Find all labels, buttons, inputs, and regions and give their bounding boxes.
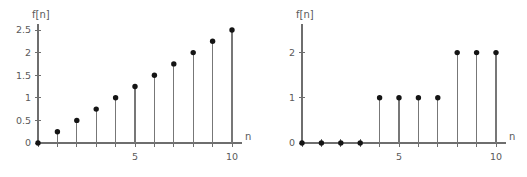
data-point-l-8	[191, 50, 196, 55]
data-point-l-3	[94, 106, 99, 111]
data-point-l-9	[210, 39, 215, 44]
data-point-l-5	[132, 84, 137, 89]
right-plot-canvas: 012510f[n]n	[264, 0, 527, 177]
data-point-l-4	[113, 95, 118, 100]
x-tick-label-r-5: 5	[396, 151, 402, 162]
y-tick-label-l-3: 1.5	[16, 70, 31, 81]
y-axis-label: f[n]	[32, 9, 50, 20]
right-plot-content: 012510f[n]n	[289, 9, 515, 162]
data-point-r-2	[338, 140, 343, 145]
y-axis-label: f[n]	[296, 9, 314, 20]
left-plot-content: 00.511.522.5510f[n]n	[16, 9, 251, 162]
data-point-r-6	[416, 95, 421, 100]
left-stem-plot: 00.511.522.5510f[n]n	[0, 0, 263, 177]
data-point-r-7	[435, 95, 440, 100]
data-point-r-8	[455, 50, 460, 55]
x-tick-label-l-5: 5	[132, 151, 138, 162]
y-tick-label-l-5: 2.5	[16, 24, 31, 35]
y-tick-label-r-2: 2	[289, 47, 295, 58]
data-point-r-9	[474, 50, 479, 55]
stem-plot-figure: 00.511.522.5510f[n]n 012510f[n]n	[0, 0, 527, 177]
data-point-r-3	[358, 140, 363, 145]
data-point-r-4	[377, 95, 382, 100]
x-tick-label-r-10: 10	[490, 151, 502, 162]
x-tick-label-l-10: 10	[226, 151, 238, 162]
y-tick-label-l-0: 0	[25, 137, 31, 148]
data-point-r-10	[493, 50, 498, 55]
y-tick-label-l-2: 1	[25, 92, 31, 103]
data-point-l-6	[152, 73, 157, 78]
data-point-r-1	[319, 140, 324, 145]
x-axis-label: n	[245, 131, 251, 142]
data-point-l-2	[74, 118, 79, 123]
data-point-l-1	[55, 129, 60, 134]
right-stem-plot: 012510f[n]n	[264, 0, 527, 177]
data-point-r-5	[396, 95, 401, 100]
left-plot-canvas: 00.511.522.5510f[n]n	[0, 0, 263, 177]
data-point-l-7	[171, 61, 176, 66]
y-tick-label-r-1: 1	[289, 92, 295, 103]
y-tick-label-l-1: 0.5	[16, 115, 31, 126]
y-tick-label-l-4: 2	[25, 47, 31, 58]
data-point-l-10	[229, 27, 234, 32]
data-point-l-0	[35, 140, 40, 145]
x-axis-label: n	[509, 131, 515, 142]
data-point-r-0	[299, 140, 304, 145]
y-tick-label-r-0: 0	[289, 137, 295, 148]
